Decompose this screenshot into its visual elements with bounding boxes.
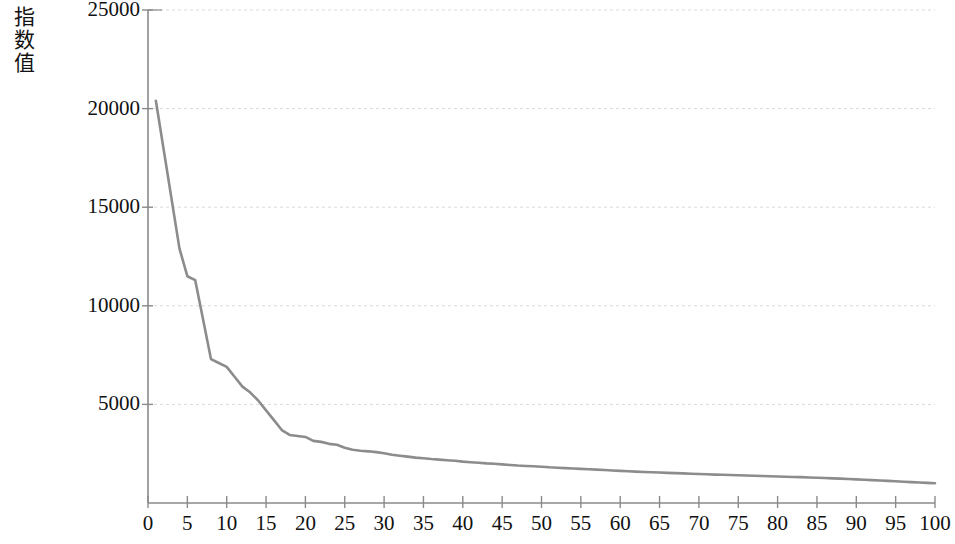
x-tick-label: 10 <box>216 512 237 534</box>
x-tick-label: 40 <box>452 512 473 534</box>
x-tick-label: 65 <box>649 512 670 534</box>
x-tick-label: 100 <box>919 512 951 534</box>
x-tick-label: 0 <box>143 512 154 534</box>
x-tick-label: 20 <box>295 512 316 534</box>
gridlines <box>148 10 935 404</box>
x-tick-label: 95 <box>885 512 906 534</box>
x-tick-label: 50 <box>531 512 552 534</box>
x-tick-label: 80 <box>767 512 788 534</box>
x-tick-label: 45 <box>492 512 513 534</box>
x-tick-label: 25 <box>334 512 355 534</box>
x-tick-label: 75 <box>728 512 749 534</box>
x-tick-label: 5 <box>182 512 193 534</box>
x-tick-label: 60 <box>610 512 631 534</box>
x-tick-label: 55 <box>570 512 591 534</box>
data-line-eigenvalue <box>156 101 935 484</box>
x-axis-tick-labels: 0510152025303540455055606570758085909510… <box>0 512 955 544</box>
x-tick-label: 35 <box>413 512 434 534</box>
x-tick-label: 30 <box>374 512 395 534</box>
x-tick-label: 70 <box>688 512 709 534</box>
x-tick-label: 90 <box>846 512 867 534</box>
plot-area <box>0 0 955 544</box>
chart-figure: 指数值 250002000015000100005000 05101520253… <box>0 0 955 544</box>
axis-tick-marks <box>142 10 935 508</box>
x-tick-label: 15 <box>256 512 277 534</box>
axis-lines <box>148 10 935 503</box>
x-tick-label: 85 <box>806 512 827 534</box>
